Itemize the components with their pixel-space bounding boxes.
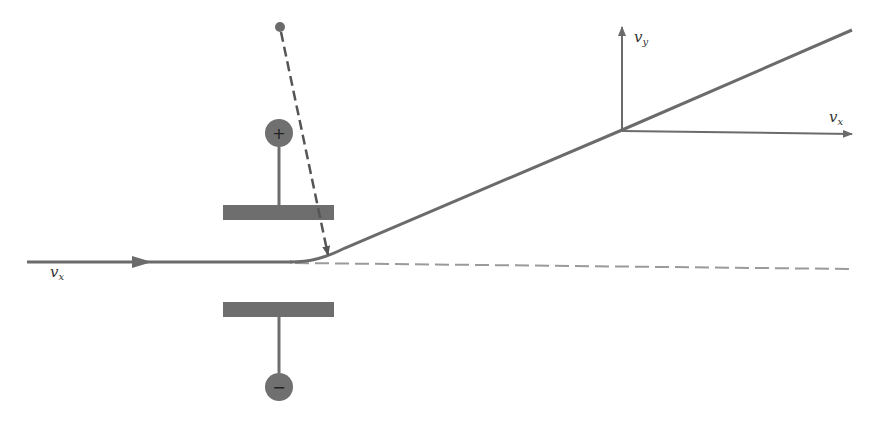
undeflected-path-dashed — [295, 263, 852, 269]
deflected-trajectory — [290, 30, 852, 262]
label-incoming-vx: vx — [50, 263, 64, 282]
bottom-plate — [223, 302, 334, 317]
positive-plate-assembly: + — [223, 119, 334, 220]
label-vy: vy — [634, 28, 648, 47]
beam-direction-arrow-icon — [132, 256, 152, 268]
minus-icon: − — [272, 378, 285, 397]
negative-plate-assembly: − — [223, 302, 334, 401]
source-dot — [275, 22, 285, 32]
deflection-diagram: + − vx vy vx — [0, 0, 879, 429]
label-vx: vx — [829, 108, 843, 127]
top-plate — [223, 205, 334, 220]
vx-axis-arrow — [622, 131, 852, 134]
plus-icon: + — [272, 124, 285, 143]
incoming-beam — [27, 256, 292, 268]
